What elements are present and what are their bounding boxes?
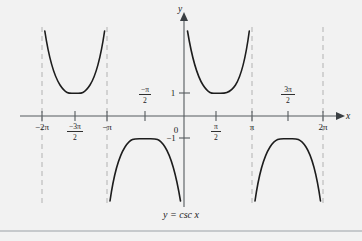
- x-label-pi: π: [250, 122, 255, 132]
- y-label-one: 1: [171, 88, 176, 98]
- figure-background: [0, 0, 362, 241]
- y-axis-label: y: [177, 4, 183, 14]
- graph-figure: x y 0 1 −1 −2π −3π 2 −π −π 2 π 2 π 3π 2 …: [0, 0, 362, 241]
- x-label-pi-half-denominator: 2: [214, 133, 218, 142]
- x-label-three-pi-half-numerator: 3π: [284, 85, 292, 94]
- x-label-neg-two-pi: −2π: [35, 122, 50, 132]
- x-label-two-pi: 2π: [318, 122, 328, 132]
- y-label-neg-one: −1: [166, 133, 176, 143]
- x-label-pi-half-numerator: π: [214, 122, 218, 131]
- x-label-neg-pi-half-denominator: 2: [143, 96, 147, 105]
- x-label-neg-pi-half-numerator: −π: [141, 85, 149, 94]
- x-label-neg-three-pi-half-numerator: −3π: [69, 122, 81, 131]
- x-label-three-pi-half-denominator: 2: [286, 96, 290, 105]
- x-label-neg-three-pi-half-denominator: 2: [73, 133, 77, 142]
- figure-caption: y = csc x: [162, 209, 199, 220]
- x-axis-label: x: [345, 111, 351, 121]
- x-label-neg-pi: −π: [102, 122, 112, 132]
